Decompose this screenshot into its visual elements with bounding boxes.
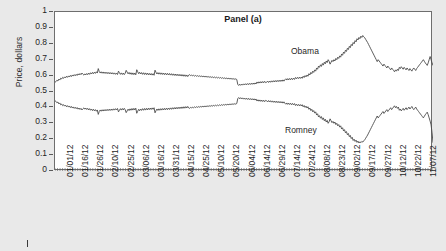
y-tick-label: 0.1 (15, 149, 47, 158)
y-tick-label: 0.5 (15, 86, 47, 95)
y-tick-label: 0.6 (15, 70, 47, 79)
y-tick-mark (49, 43, 53, 44)
y-tick-label: 0.7 (15, 54, 47, 63)
y-tick-mark (49, 170, 53, 171)
y-tick-label: 0.4 (15, 101, 47, 110)
y-tick-label: 0.2 (15, 133, 47, 142)
y-tick-mark (49, 27, 53, 28)
y-tick-mark (49, 154, 53, 155)
y-tick-label: 0.8 (15, 38, 47, 47)
y-tick-label: 0.9 (15, 22, 47, 31)
series-canvas (55, 12, 433, 171)
y-tick-mark (49, 91, 53, 92)
y-tick-label: 1 (15, 6, 47, 15)
y-tick-mark (49, 122, 53, 123)
series-line-romney (55, 98, 433, 143)
series-label-romney: Romney (285, 125, 317, 135)
series-label-obama: Obama (291, 46, 319, 56)
y-tick-mark (49, 11, 53, 12)
series-line-obama (55, 36, 433, 86)
chart-figure: Price, dollars Panel (a) Obama Romney 00… (0, 0, 446, 251)
chart-title: Panel (a) (54, 14, 432, 24)
y-tick-mark (49, 59, 53, 60)
x-minor-ticks (55, 168, 433, 171)
y-tick-label: 0.3 (15, 117, 47, 126)
plot-area (54, 11, 432, 170)
y-tick-mark (49, 75, 53, 76)
y-tick-mark (49, 138, 53, 139)
y-tick-mark (49, 106, 53, 107)
corner-mark (27, 240, 28, 247)
y-tick-label: 0 (15, 165, 47, 174)
